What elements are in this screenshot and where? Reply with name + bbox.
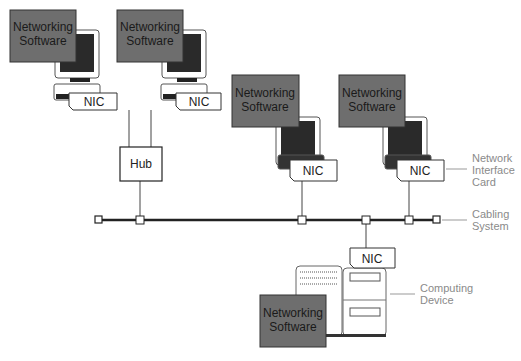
- svg-text:Software: Software: [241, 100, 289, 114]
- callout-cabling: Cabling: [472, 208, 509, 220]
- svg-text:Networking: Networking: [263, 306, 323, 320]
- svg-text:System: System: [472, 220, 509, 232]
- svg-text:NIC: NIC: [362, 252, 383, 266]
- svg-text:Device: Device: [420, 294, 454, 306]
- workstation-3: Networking Software NIC: [232, 75, 337, 181]
- workstation-2: Networking Software NIC: [117, 10, 221, 110]
- svg-text:NIC: NIC: [303, 164, 324, 178]
- svg-text:NIC: NIC: [84, 95, 105, 109]
- hub-label: Hub: [130, 157, 152, 171]
- svg-text:Software: Software: [19, 34, 67, 48]
- computing-device: Networking Software NIC: [260, 248, 395, 347]
- svg-text:Card: Card: [472, 176, 496, 188]
- svg-text:Networking: Networking: [235, 86, 295, 100]
- workstation-4: Networking Software NIC: [339, 75, 444, 181]
- svg-text:Networking: Networking: [13, 20, 73, 34]
- bus-terminator-right: [433, 216, 440, 223]
- network-diagram: Hub Networking Software NIC Networking S…: [0, 0, 521, 361]
- bus-tap: [136, 216, 144, 224]
- bus-terminator-left: [95, 216, 102, 223]
- svg-text:Software: Software: [126, 34, 174, 48]
- callout-device: Computing: [420, 282, 473, 294]
- svg-text:Interface: Interface: [472, 164, 515, 176]
- svg-text:NIC: NIC: [189, 95, 210, 109]
- svg-text:NIC: NIC: [410, 164, 431, 178]
- svg-text:Networking: Networking: [342, 86, 402, 100]
- workstation-1: Networking Software NIC: [10, 10, 117, 110]
- svg-text:Software: Software: [348, 100, 396, 114]
- callout-nic: Network: [472, 152, 513, 164]
- svg-text:Networking: Networking: [120, 20, 180, 34]
- svg-text:Software: Software: [269, 320, 317, 334]
